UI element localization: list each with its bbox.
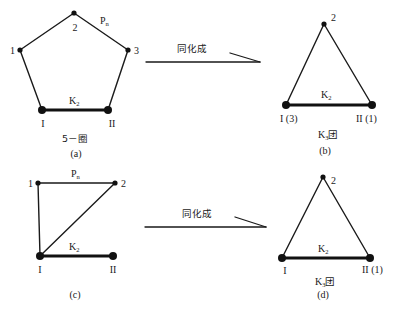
node-I	[38, 106, 46, 114]
panel-a-caption: (a)	[70, 148, 81, 160]
panel-b-caption: (b)	[319, 145, 331, 157]
node-label-II: II (1)	[362, 264, 383, 276]
node-II	[366, 254, 374, 262]
node-label-I: I	[283, 265, 286, 276]
node-label-3: 3	[134, 45, 139, 56]
node-label-1: 1	[10, 45, 15, 56]
node-2	[71, 10, 76, 15]
node-2	[320, 174, 325, 179]
node-I	[36, 252, 44, 260]
panel-c-caption: (c)	[69, 289, 80, 301]
panel-d-caption: (d)	[317, 289, 329, 301]
arrow-bottom-label: 同化成	[182, 208, 212, 219]
graph-assimilation-figure: 1 2 3 I II Pn K2 5－圈 (a) 同化成 2 I (3) II …	[0, 0, 393, 312]
node-label-I: I	[41, 118, 44, 129]
node-label-II: II	[110, 264, 117, 275]
node-2	[321, 21, 326, 26]
node-I	[282, 101, 290, 109]
panel-a-name: 5－圈	[62, 133, 88, 144]
arrow-top-label: 同化成	[177, 43, 207, 54]
node-label-II: II (1)	[356, 113, 377, 125]
panel-d-name: K3团	[315, 276, 335, 288]
node-II	[109, 252, 117, 260]
panel-d-name-suffix: 团	[325, 276, 335, 287]
node-II	[104, 106, 112, 114]
node-label-2: 2	[73, 22, 78, 33]
node-1	[17, 47, 22, 52]
node-2	[112, 180, 117, 185]
node-3	[125, 47, 130, 52]
edge-label-sub: 2	[76, 246, 79, 253]
node-label-I: I (3)	[280, 113, 298, 125]
panel-b-name: K3团	[318, 129, 338, 141]
node-label-2: 2	[331, 12, 336, 23]
node-label-II: II	[109, 118, 116, 129]
panel-b-name-suffix: 团	[328, 129, 338, 140]
edge-label-sub: 2	[76, 100, 79, 107]
node-label-2: 2	[331, 175, 336, 186]
node-label-I: I	[38, 264, 41, 275]
node-label-1: 1	[28, 178, 33, 189]
edge-label-sub: 2	[328, 94, 331, 101]
node-label-2: 2	[121, 178, 126, 189]
edge-label-sub: 2	[325, 248, 328, 255]
node-II	[368, 101, 376, 109]
node-1	[35, 180, 40, 185]
node-I	[278, 254, 286, 262]
